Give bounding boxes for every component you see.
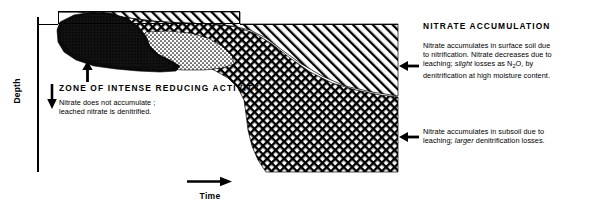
nitrate-line-2: to nitrification. Nitrate decreases due …: [423, 50, 609, 59]
subsoil-line-2: leaching; larger denitrification losses.: [423, 136, 609, 145]
reducing-zone-line-1: Nitrate does not accumulate ;: [59, 98, 259, 107]
nitrate-line-1: Nitrate accumulates in surface soil due: [423, 41, 609, 50]
depth-axis-label: Depth: [12, 65, 22, 117]
reducing-zone-line-2: leached nitrate is denitrified.: [59, 107, 259, 116]
subsoil-pointer-arrow: [399, 131, 419, 143]
subsoil-line-2-b: denitrification losses.: [474, 136, 545, 145]
nitrate-line-3-c: O, by: [516, 59, 534, 68]
nitrate-line-3-b: losses as N: [472, 59, 512, 68]
subsoil-accumulation-body: Nitrate accumulates in subsoil due to le…: [423, 127, 609, 145]
nitrate-line-3-italic: slight: [455, 59, 472, 68]
nitrate-accumulation-body: Nitrate accumulates in surface soil due …: [423, 41, 609, 80]
zone-pointer-arrow: [81, 61, 94, 83]
surface-line-left: [38, 24, 58, 25]
subsoil-line-1: Nitrate accumulates in subsoil due to: [423, 127, 609, 136]
nitrate-accumulation-pointer-arrow: [399, 60, 419, 72]
subsoil-line-2-a: leaching;: [423, 136, 455, 145]
time-axis-group: Time: [168, 174, 252, 201]
depth-direction-arrow: [46, 84, 58, 110]
nitrate-line-4: denitrification at high moisture content…: [423, 71, 609, 80]
subsoil-line-2-italic: larger: [455, 136, 474, 145]
reducing-zone-title: ZONE OF INTENSE REDUCING ACTIVITY: [59, 83, 260, 93]
time-direction-arrow: [187, 176, 233, 188]
depth-axis-line: [37, 17, 39, 172]
surface-line-right: [240, 24, 398, 25]
reducing-zone-body: Nitrate does not accumulate ; leached ni…: [59, 98, 259, 117]
time-axis-label: Time: [168, 191, 252, 201]
surface-layer-box: [58, 11, 240, 24]
nitrate-accumulation-title: NITRATE ACCUMULATION: [423, 21, 550, 31]
nitrate-line-3-a: leaching;: [423, 59, 455, 68]
nitrate-line-3: leaching; slight losses as N2O, by: [423, 59, 609, 71]
soil-nitrate-depth-time-diagram: Depth Time ZONE OF INTENSE REDUCING ACTI…: [0, 0, 616, 212]
